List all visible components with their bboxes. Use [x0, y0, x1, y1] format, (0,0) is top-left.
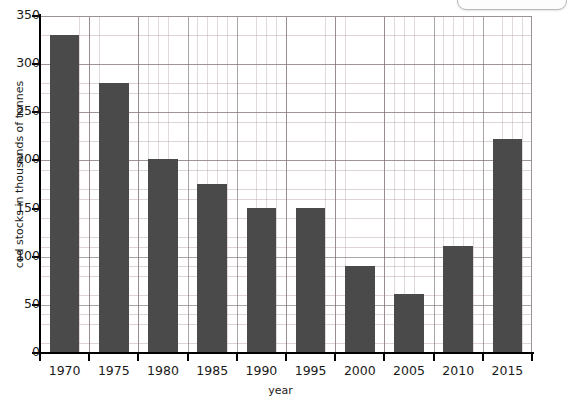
- x-axis-title: year: [0, 384, 561, 397]
- x-tick-6: [334, 352, 336, 361]
- x-tick-0: [39, 352, 41, 361]
- x-tick-7: [383, 352, 385, 361]
- x-tick-1: [88, 352, 90, 361]
- x-tick-4: [236, 352, 238, 361]
- x-tick-3: [187, 352, 189, 361]
- cropped-title-remnant: [236, 0, 326, 7]
- cropped-toolbar-chip[interactable]: [457, 0, 567, 10]
- plot-area: [40, 16, 532, 353]
- y-tick-label-50: 50: [10, 298, 40, 310]
- y-tick-label-0: 0: [10, 346, 40, 358]
- x-tick-5: [285, 352, 287, 361]
- y-tick-label-350: 350: [10, 9, 40, 21]
- x-tick-2: [137, 352, 139, 361]
- plot-border: [40, 16, 532, 353]
- x-tick-10: [531, 352, 533, 361]
- x-tick-label-2015: 2015: [477, 364, 537, 378]
- x-tick-9: [482, 352, 484, 361]
- y-axis-title: cod stocks in thousands of tonnes: [13, 60, 26, 290]
- x-tick-8: [433, 352, 435, 361]
